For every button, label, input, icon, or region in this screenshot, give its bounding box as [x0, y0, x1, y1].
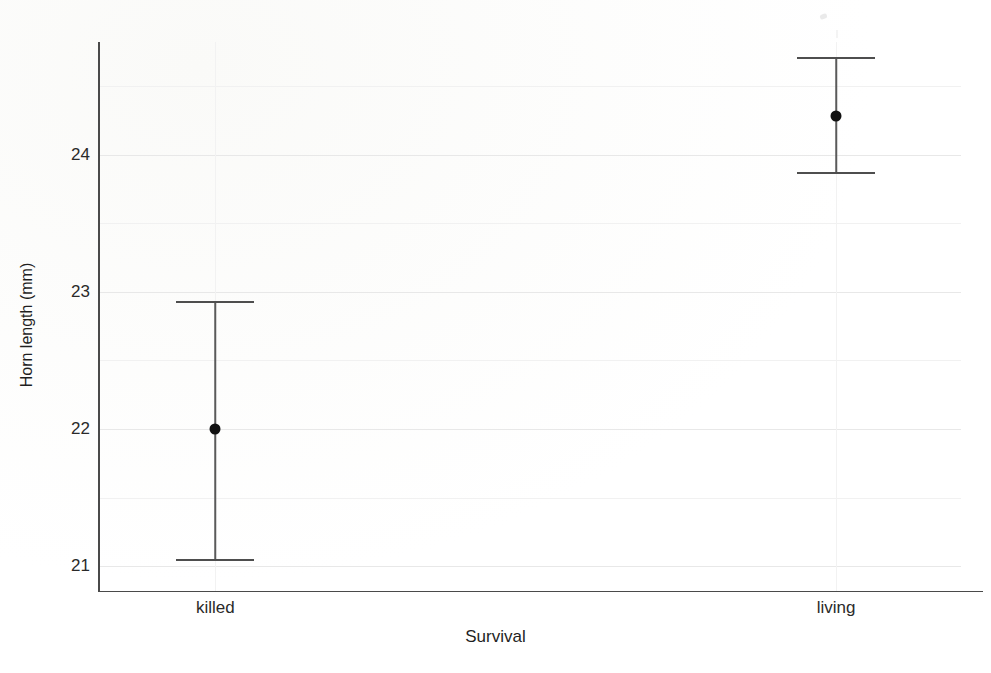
y-tick-label-24: 24 — [50, 145, 90, 165]
chart-figure: 24 23 22 21 Horn length (mm) killed livi… — [0, 0, 991, 673]
gridline-y-21-5 — [99, 498, 961, 499]
scan-artifact-speck — [819, 13, 827, 20]
gridline-y-22 — [99, 429, 961, 430]
plot-area — [99, 42, 961, 591]
errorbar-cap-upper — [797, 57, 875, 59]
x-tick-label-living: living — [817, 598, 856, 618]
gridline-y-23 — [99, 292, 961, 293]
errorbar-cap-lower — [797, 172, 875, 174]
data-point-killed — [210, 424, 221, 435]
x-tick-label-killed: killed — [196, 598, 235, 618]
y-tick-label-22: 22 — [50, 419, 90, 439]
y-axis-title-wrapper: Horn length (mm) — [0, 0, 40, 673]
gridline-y-24-5 — [99, 86, 961, 87]
gridline-y-24 — [99, 155, 961, 156]
x-axis-title: Survival — [0, 627, 991, 647]
errorbar-cap-lower — [176, 559, 254, 561]
y-axis-line — [98, 42, 100, 592]
gridline-y-21 — [99, 566, 961, 567]
x-axis-line — [98, 591, 983, 592]
y-tick-label-23: 23 — [50, 282, 90, 302]
y-axis-title: Horn length (mm) — [18, 125, 36, 525]
gridline-y-23-5 — [99, 223, 961, 224]
data-point-living — [831, 111, 842, 122]
y-tick-label-group: 24 23 22 21 — [44, 0, 90, 673]
y-tick-label-21: 21 — [50, 556, 90, 576]
scan-artifact-speck — [836, 30, 838, 38]
gridline-y-22-5 — [99, 360, 961, 361]
errorbar-cap-upper — [176, 301, 254, 303]
